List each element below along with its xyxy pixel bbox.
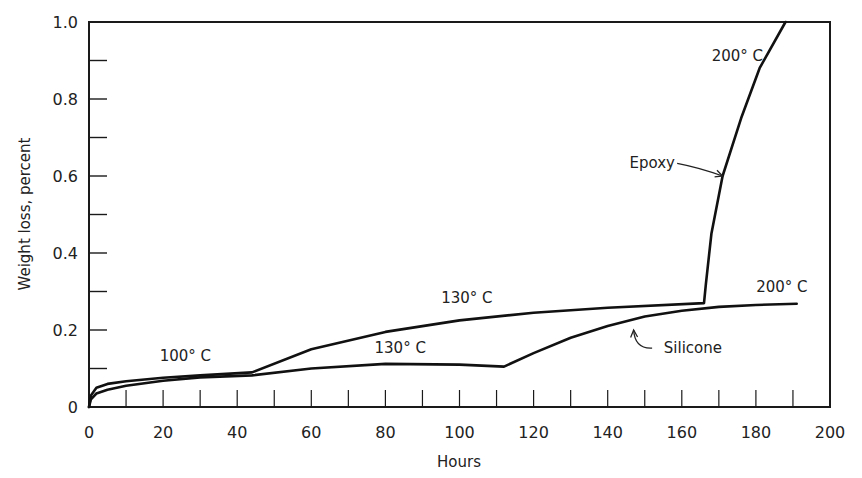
annotation-label: 200° C (712, 47, 763, 65)
y-axis-label: Weight loss, percent (16, 137, 34, 290)
x-tick-label: 40 (227, 423, 247, 442)
annotation-label: Epoxy (629, 154, 675, 172)
x-tick-label: 120 (518, 423, 549, 442)
x-axis-ticks (126, 390, 793, 407)
annotation-label: 200° C (756, 278, 807, 296)
x-tick-labels: 020406080100120140160180200 (84, 423, 845, 442)
annotation-arrow (634, 330, 652, 348)
annotation-label: 100° C (160, 347, 211, 365)
x-tick-label: 140 (592, 423, 623, 442)
y-tick-label: 0.2 (53, 321, 78, 340)
y-tick-label: 0 (68, 398, 78, 417)
x-tick-label: 80 (375, 423, 395, 442)
x-axis-label: Hours (437, 453, 481, 471)
y-tick-label: 1.0 (53, 13, 78, 32)
x-tick-label: 160 (667, 423, 698, 442)
y-tick-label: 0.6 (53, 167, 78, 186)
annotation-label: 130° C (375, 339, 426, 357)
annotation-arrow (677, 163, 722, 176)
y-tick-labels: 00.20.40.60.81.0 (53, 13, 78, 417)
x-tick-label: 100 (444, 423, 475, 442)
annotation-label: 130° C (441, 289, 492, 307)
x-tick-label: 60 (301, 423, 321, 442)
y-tick-label: 0.4 (53, 244, 78, 263)
x-tick-label: 0 (84, 423, 94, 442)
x-tick-label: 180 (741, 423, 772, 442)
x-tick-label: 20 (153, 423, 173, 442)
y-axis-ticks (89, 61, 107, 369)
y-tick-label: 0.8 (53, 90, 78, 109)
x-tick-label: 200 (815, 423, 846, 442)
weight-loss-chart: 00.20.40.60.81.0 02040608010012014016018… (0, 0, 862, 478)
annotation-label: Silicone (664, 339, 722, 357)
